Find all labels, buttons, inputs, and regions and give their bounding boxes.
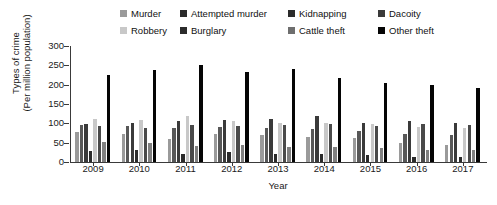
bar-other-theft-2017 — [476, 88, 479, 162]
bar-burglary-2017 — [468, 125, 471, 162]
legend-row-1: MurderAttempted murderKidnappingDacoity — [0, 6, 497, 21]
x-axis: 200920102011201220132014201520162017 — [70, 163, 486, 179]
legend-swatch-icon — [120, 10, 127, 17]
legend-item-murder[interactable]: Murder — [120, 6, 161, 21]
y-axis-tick-label: 150 — [48, 99, 64, 109]
legend-label: Robbery — [131, 25, 167, 36]
bar-burglary-2011 — [190, 125, 193, 162]
bar-group — [256, 46, 302, 162]
x-axis-tick-mark — [186, 162, 187, 166]
bar-kidnapping-2009 — [84, 124, 87, 162]
bar-dacoity-2015 — [366, 155, 369, 162]
bar-robbery-2010 — [139, 120, 142, 162]
y-axis-tick-label: 200 — [48, 80, 64, 90]
legend-item-burglary[interactable]: Burglary — [180, 23, 226, 38]
bar-kidnapping-2017 — [454, 123, 457, 162]
y-axis-tick-mark — [64, 65, 69, 66]
legend-label: Attempted murder — [191, 8, 267, 19]
bar-cattle-theft-2015 — [380, 148, 383, 162]
bar-robbery-2014 — [324, 123, 327, 162]
y-axis-tick-label: 100 — [48, 119, 64, 129]
bar-other-theft-2009 — [107, 75, 110, 162]
bar-burglary-2010 — [144, 128, 147, 162]
bar-attempted-murder-2014 — [311, 129, 314, 162]
legend-item-cattle-theft[interactable]: Cattle theft — [288, 23, 345, 38]
bar-robbery-2016 — [417, 127, 420, 162]
legend-item-other-theft[interactable]: Other theft — [378, 23, 434, 38]
legend-swatch-icon — [288, 10, 295, 17]
bar-burglary-2012 — [236, 126, 239, 162]
bar-attempted-murder-2011 — [172, 128, 175, 162]
bar-cattle-theft-2009 — [102, 142, 105, 162]
bar-attempted-murder-2013 — [265, 128, 268, 162]
y-axis-tick-mark — [64, 104, 69, 105]
bar-murder-2014 — [306, 137, 309, 162]
bar-attempted-murder-2016 — [403, 134, 406, 162]
x-axis-tick-label: 2014 — [301, 163, 347, 179]
bar-murder-2009 — [75, 132, 78, 162]
bar-robbery-2013 — [278, 123, 281, 162]
plot-area — [70, 46, 487, 163]
legend-swatch-icon — [288, 27, 295, 34]
bar-dacoity-2014 — [320, 154, 323, 162]
x-axis-tick-label: 2016 — [394, 163, 440, 179]
y-axis-tick-label: 250 — [48, 61, 64, 71]
bar-other-theft-2014 — [338, 78, 341, 162]
bar-murder-2017 — [445, 145, 448, 162]
y-axis-tick-mark — [64, 162, 69, 163]
bar-cattle-theft-2010 — [148, 143, 151, 162]
bar-groups — [71, 46, 487, 162]
x-axis-tick-mark — [139, 162, 140, 166]
bar-other-theft-2012 — [245, 72, 248, 162]
bar-dacoity-2012 — [227, 152, 230, 162]
x-axis-tick-label: 2017 — [440, 163, 486, 179]
x-axis-tick-mark — [93, 162, 94, 166]
legend-swatch-icon — [180, 10, 187, 17]
bar-cattle-theft-2011 — [195, 146, 198, 162]
legend-item-robbery[interactable]: Robbery — [120, 23, 167, 38]
legend-label: Kidnapping — [299, 8, 347, 19]
bar-burglary-2015 — [375, 126, 378, 162]
legend-swatch-icon — [378, 27, 385, 34]
bar-kidnapping-2012 — [223, 120, 226, 162]
x-axis-title: Year — [70, 180, 486, 191]
x-axis-tick-label: 2015 — [347, 163, 393, 179]
x-axis-tick-mark — [463, 162, 464, 166]
bar-attempted-murder-2009 — [80, 125, 83, 162]
legend-swatch-icon — [120, 27, 127, 34]
x-axis-tick-label: 2011 — [162, 163, 208, 179]
bar-robbery-2015 — [371, 124, 374, 162]
bar-attempted-murder-2017 — [450, 135, 453, 162]
bar-kidnapping-2010 — [131, 123, 134, 162]
bar-other-theft-2016 — [430, 85, 433, 162]
bar-robbery-2009 — [93, 119, 96, 162]
bar-murder-2016 — [399, 143, 402, 162]
legend-item-attempted-murder[interactable]: Attempted murder — [180, 6, 267, 21]
bar-group — [117, 46, 163, 162]
bar-dacoity-2017 — [459, 157, 462, 162]
bar-group — [210, 46, 256, 162]
legend-item-kidnapping[interactable]: Kidnapping — [288, 6, 347, 21]
bar-dacoity-2011 — [181, 154, 184, 163]
bar-burglary-2009 — [98, 126, 101, 162]
x-axis-tick-mark — [417, 162, 418, 166]
bar-robbery-2017 — [463, 128, 466, 162]
legend-item-dacoity[interactable]: Dacoity — [378, 6, 421, 21]
y-axis-title: Types of crime (Per million population) — [10, 0, 32, 128]
x-axis-tick-mark — [370, 162, 371, 166]
y-axis-title-line1: Types of crime — [10, 32, 21, 94]
bar-dacoity-2009 — [89, 151, 92, 162]
bar-attempted-murder-2015 — [357, 131, 360, 162]
bar-group — [71, 46, 117, 162]
y-axis-tick-mark — [64, 123, 69, 124]
legend-label: Cattle theft — [299, 25, 345, 36]
bar-group — [395, 46, 441, 162]
bar-other-theft-2015 — [384, 83, 387, 162]
legend-swatch-icon — [378, 10, 385, 17]
bar-cattle-theft-2014 — [333, 147, 336, 162]
bar-other-theft-2010 — [153, 70, 156, 162]
legend-label: Other theft — [389, 25, 434, 36]
bar-kidnapping-2013 — [269, 119, 272, 162]
bar-cattle-theft-2012 — [241, 145, 244, 162]
x-axis-tick-mark — [278, 162, 279, 166]
